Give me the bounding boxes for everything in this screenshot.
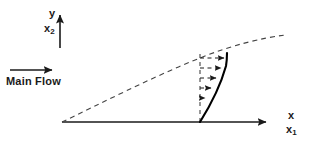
boundary-layer-diagram: y x2 x x1 Main Flow bbox=[0, 0, 316, 145]
x-axis-label-secondary: x1 bbox=[286, 124, 297, 135]
main-flow-label: Main Flow bbox=[6, 76, 61, 87]
y-axis-label-secondary: x2 bbox=[44, 23, 55, 34]
y-axis-label-primary: y bbox=[49, 8, 55, 19]
velocity-profile-curve bbox=[200, 53, 227, 122]
x-axis-label-secondary-subscript: 1 bbox=[292, 128, 296, 137]
x-axis-label-primary: x bbox=[288, 110, 294, 121]
boundary-layer-edge-curve bbox=[62, 35, 285, 122]
y-axis-label-secondary-subscript: 2 bbox=[50, 27, 54, 36]
